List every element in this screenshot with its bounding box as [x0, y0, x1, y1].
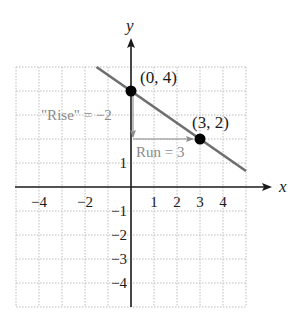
point-label-0-4: (0, 4) [140, 68, 177, 87]
point-0-4 [126, 86, 137, 97]
y-axis-label: y [124, 16, 134, 35]
x-tick-label: −2 [77, 194, 93, 210]
x-tick-label: 1 [150, 194, 158, 210]
x-tick-label: 2 [173, 194, 181, 210]
run-annotation: Run = 3 [136, 144, 184, 160]
x-tick-labels: −4−21234 [31, 194, 227, 210]
y-tick-label: −1 [111, 203, 127, 219]
rise-annotation: "Rise" = −2 [41, 107, 112, 123]
y-tick-label: −4 [111, 275, 127, 291]
point-label-3-2: (3, 2) [192, 113, 229, 132]
x-axis-label: x [278, 177, 287, 196]
y-tick-label: 1 [120, 155, 128, 171]
coordinate-plane: x y −4−21234 1−1−2−3−4 "Rise" = −2 Run =… [0, 0, 304, 319]
x-tick-label: 4 [219, 194, 227, 210]
x-tick-label: 3 [196, 194, 204, 210]
point-3-2 [195, 134, 206, 145]
y-tick-label: −2 [111, 227, 127, 243]
x-tick-label: −4 [31, 194, 47, 210]
y-tick-labels: 1−1−2−3−4 [111, 155, 127, 291]
y-tick-label: −3 [111, 251, 127, 267]
